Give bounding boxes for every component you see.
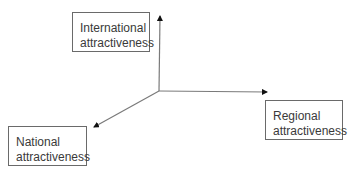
international-attractiveness-box: International attractiveness: [72, 12, 150, 52]
national-attractiveness-box: National attractiveness: [8, 126, 87, 166]
national-label-line1: National: [16, 135, 86, 150]
regional-attractiveness-box: Regional attractiveness: [265, 100, 343, 140]
international-label-line1: International: [80, 21, 149, 36]
regional-label-line1: Regional: [273, 109, 342, 124]
regional-label-line2: attractiveness: [273, 124, 342, 139]
national-axis-arrow: [94, 91, 159, 127]
international-axis-arrow: [159, 16, 160, 91]
international-label-line2: attractiveness: [80, 36, 149, 51]
regional-axis-arrow: [159, 91, 267, 92]
national-label-line2: attractiveness: [16, 150, 86, 165]
